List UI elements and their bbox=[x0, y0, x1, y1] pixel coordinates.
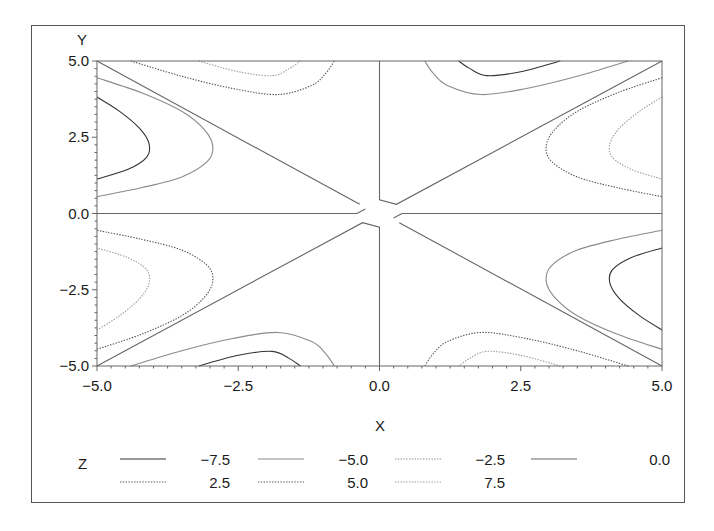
contour-line bbox=[131, 332, 334, 366]
contour-line bbox=[97, 97, 150, 179]
legend-label: 5.0 bbox=[347, 474, 368, 491]
contour-line bbox=[459, 61, 561, 76]
contour-chart: −5.0−2.50.02.55.05.02.50.0−2.5−5.0 Y X Z… bbox=[0, 0, 714, 531]
contour-line bbox=[97, 248, 150, 330]
contour-line bbox=[609, 97, 662, 179]
contour-line bbox=[97, 230, 213, 349]
contour-line-zero bbox=[97, 61, 360, 204]
plot-area bbox=[97, 61, 662, 366]
legend-label: −7.5 bbox=[200, 451, 230, 468]
legend-label: 2.5 bbox=[209, 474, 230, 491]
x-tick-label: 0.0 bbox=[369, 377, 390, 394]
x-tick-label: −2.5 bbox=[223, 377, 253, 394]
legend-label: 0.0 bbox=[649, 451, 670, 468]
y-tick-label: 5.0 bbox=[68, 52, 89, 69]
x-tick-label: 5.0 bbox=[652, 377, 673, 394]
x-tick-label: −5.0 bbox=[82, 377, 112, 394]
legend-label: −5.0 bbox=[338, 451, 368, 468]
contour-line-zero bbox=[97, 223, 380, 366]
y-axis-title: Y bbox=[77, 31, 87, 48]
contour-line bbox=[131, 61, 334, 95]
y-tick-label: 2.5 bbox=[68, 128, 89, 145]
y-tick-label: −5.0 bbox=[59, 357, 89, 374]
contour-line bbox=[425, 332, 628, 366]
contour-line bbox=[425, 61, 628, 95]
y-tick-label: −2.5 bbox=[59, 281, 89, 298]
legend-label: 7.5 bbox=[484, 474, 505, 491]
contour-line bbox=[546, 230, 662, 349]
legend-title: Z bbox=[78, 455, 87, 472]
contour-line-zero bbox=[380, 61, 663, 204]
contour-line bbox=[199, 61, 301, 76]
contour-line-zero bbox=[394, 214, 402, 219]
contour-line-zero bbox=[97, 209, 365, 214]
contour-line bbox=[459, 351, 561, 366]
contour-line bbox=[609, 248, 662, 330]
x-tick-label: 2.5 bbox=[510, 377, 531, 394]
legend: Z −7.5−5.0−2.50.02.55.07.5 bbox=[78, 451, 670, 491]
contour-line bbox=[97, 78, 213, 197]
contour-line bbox=[546, 78, 662, 197]
contour-line bbox=[199, 351, 301, 366]
x-axis-title: X bbox=[375, 417, 385, 434]
y-tick-label: 0.0 bbox=[68, 205, 89, 222]
legend-label: −2.5 bbox=[475, 451, 505, 468]
contour-line-zero bbox=[399, 223, 662, 366]
